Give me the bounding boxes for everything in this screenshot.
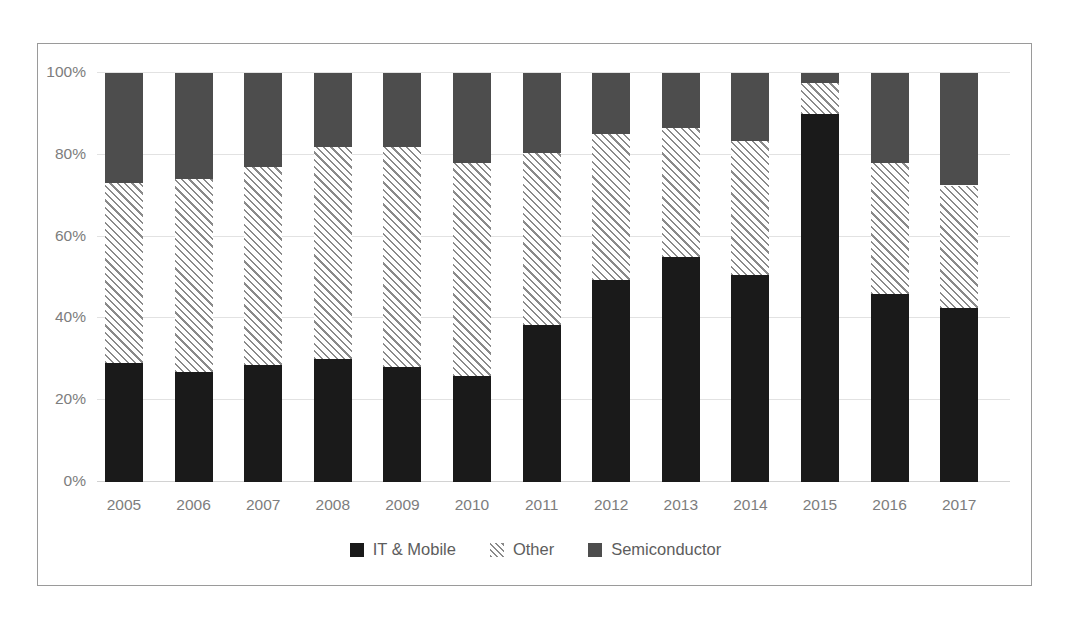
bar-segment-semiconductor[interactable] [175, 73, 213, 179]
bar-segment-other[interactable] [453, 163, 491, 376]
bar-segment-other[interactable] [940, 186, 978, 309]
bar-2005[interactable]: 2005 [105, 73, 143, 482]
bar-segment-it-mobile[interactable] [523, 325, 561, 482]
bar-segment-it-mobile[interactable] [105, 363, 143, 482]
chart-frame: 0%20%40%60%80%100% 200520062007200820092… [37, 43, 1032, 586]
bar-segment-it-mobile[interactable] [383, 367, 421, 482]
black-square-swatch [350, 543, 364, 557]
legend-label: IT & Mobile [373, 540, 456, 559]
bar-2008[interactable]: 2008 [314, 73, 352, 482]
bar-segment-other[interactable] [523, 153, 561, 325]
bar-segment-it-mobile[interactable] [662, 257, 700, 482]
bar-segment-other[interactable] [383, 147, 421, 368]
bar-segment-semiconductor[interactable] [871, 73, 909, 163]
x-axis-tick-label: 2013 [662, 496, 700, 514]
bar-segment-semiconductor[interactable] [662, 73, 700, 128]
bar-segment-it-mobile[interactable] [940, 308, 978, 482]
x-axis-tick-label: 2008 [314, 496, 352, 514]
x-axis-tick-label: 2015 [801, 496, 839, 514]
bar-segment-semiconductor[interactable] [314, 73, 352, 147]
legend-item-other[interactable]: Other [490, 540, 554, 559]
bar-segment-it-mobile[interactable] [314, 359, 352, 482]
bar-2011[interactable]: 2011 [523, 73, 561, 482]
x-axis-tick-label: 2012 [592, 496, 630, 514]
y-axis-tick-label: 20% [55, 390, 86, 408]
bar-segment-semiconductor[interactable] [453, 73, 491, 163]
bar-segment-it-mobile[interactable] [592, 280, 630, 482]
bar-segment-semiconductor[interactable] [105, 73, 143, 183]
bar-segment-semiconductor[interactable] [801, 73, 839, 83]
bar-segment-semiconductor[interactable] [940, 73, 978, 185]
bar-2006[interactable]: 2006 [175, 73, 213, 482]
bar-segment-other[interactable] [314, 147, 352, 360]
bar-segment-semiconductor[interactable] [731, 73, 769, 140]
bar-segment-it-mobile[interactable] [801, 114, 839, 482]
bar-segment-other[interactable] [662, 128, 700, 257]
y-axis-tick-label: 80% [55, 145, 86, 163]
gray-square-swatch [588, 543, 602, 557]
bar-segment-other[interactable] [592, 134, 630, 279]
bar-2014[interactable]: 2014 [731, 73, 769, 482]
bar-segment-it-mobile[interactable] [453, 376, 491, 482]
bar-segment-it-mobile[interactable] [244, 365, 282, 482]
chart-legend: IT & MobileOtherSemiconductor [38, 540, 1033, 559]
legend-item-semiconductor[interactable]: Semiconductor [588, 540, 721, 559]
bar-segment-semiconductor[interactable] [523, 73, 561, 153]
bar-segment-other[interactable] [731, 141, 769, 276]
bar-segment-semiconductor[interactable] [383, 73, 421, 147]
x-axis-tick-label: 2006 [175, 496, 213, 514]
x-axis-tick-label: 2014 [731, 496, 769, 514]
bar-segment-other[interactable] [871, 163, 909, 294]
bar-segment-other[interactable] [175, 179, 213, 371]
bar-segment-other[interactable] [244, 167, 282, 365]
legend-label: Semiconductor [611, 540, 721, 559]
plot-area: 0%20%40%60%80%100% 200520062007200820092… [97, 73, 1010, 482]
bar-segment-semiconductor[interactable] [244, 73, 282, 167]
bar-segment-it-mobile[interactable] [731, 275, 769, 482]
y-axis-tick-label: 0% [64, 472, 86, 490]
legend-item-it-mobile[interactable]: IT & Mobile [350, 540, 456, 559]
bar-2012[interactable]: 2012 [592, 73, 630, 482]
bar-2016[interactable]: 2016 [871, 73, 909, 482]
bar-segment-it-mobile[interactable] [871, 294, 909, 482]
x-axis-tick-label: 2017 [940, 496, 978, 514]
x-axis-tick-label: 2010 [453, 496, 491, 514]
bar-2017[interactable]: 2017 [940, 73, 978, 482]
y-axis-tick-label: 60% [55, 227, 86, 245]
bar-2015[interactable]: 2015 [801, 73, 839, 482]
bar-segment-semiconductor[interactable] [592, 73, 630, 134]
bar-segment-other[interactable] [105, 183, 143, 363]
legend-label: Other [513, 540, 554, 559]
x-axis-tick-label: 2009 [383, 496, 421, 514]
bar-2007[interactable]: 2007 [244, 73, 282, 482]
hatched-square-swatch [490, 543, 504, 557]
x-axis-tick-label: 2011 [523, 496, 561, 514]
y-axis-tick-label: 100% [46, 63, 86, 81]
bar-2013[interactable]: 2013 [662, 73, 700, 482]
bar-2010[interactable]: 2010 [453, 73, 491, 482]
y-axis-tick-label: 40% [55, 308, 86, 326]
bar-2009[interactable]: 2009 [383, 73, 421, 482]
bar-segment-it-mobile[interactable] [175, 372, 213, 482]
x-axis-tick-label: 2007 [244, 496, 282, 514]
x-axis-tick-label: 2016 [871, 496, 909, 514]
bar-segment-other[interactable] [801, 83, 839, 114]
x-axis-tick-label: 2005 [105, 496, 143, 514]
